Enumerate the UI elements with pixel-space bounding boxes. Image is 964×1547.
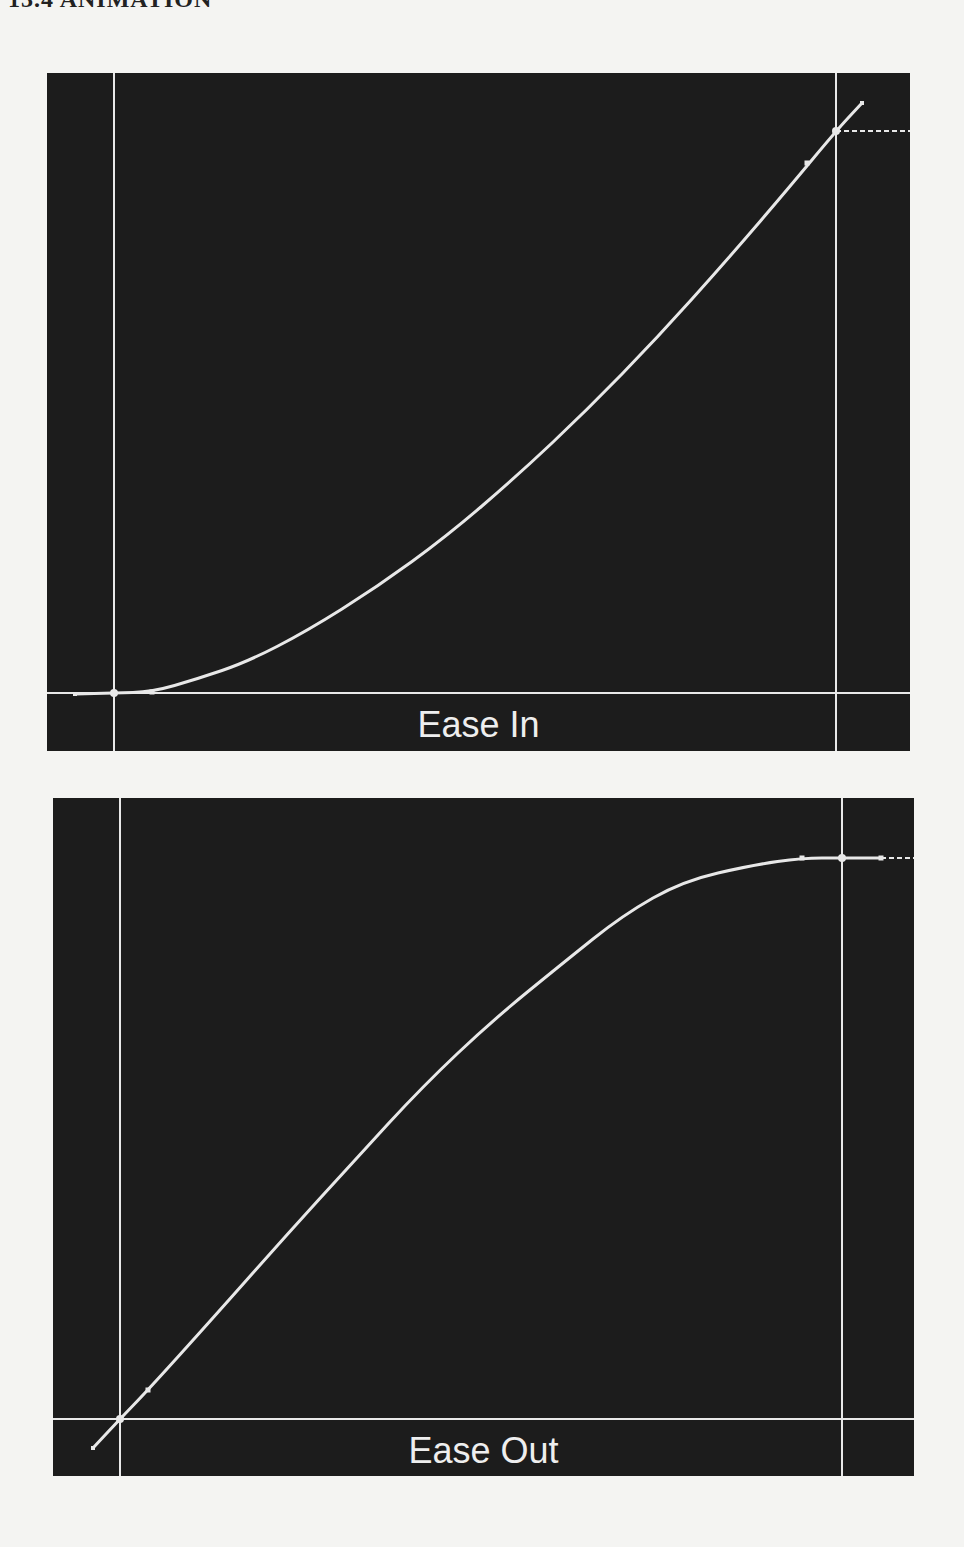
ease-out-graph-panel: Ease Out [53, 798, 914, 1476]
curve-endpoint [860, 101, 864, 105]
ease-in-curve-graph [47, 73, 910, 751]
curve-endpoint [879, 856, 883, 860]
ease-in-curve [75, 103, 862, 694]
start-keyframe-point [110, 689, 118, 697]
curve-endpoint [73, 692, 77, 696]
ease-out-curve [93, 858, 881, 1448]
page-header-fragment: 13.4 ANIMATION [8, 0, 212, 13]
end-keyframe-point [838, 854, 846, 862]
end-keyframe-point [832, 127, 840, 135]
ease-out-curve-graph [53, 798, 914, 1476]
ease-in-graph-panel: Ease In [47, 73, 910, 751]
tangent-handle-point [150, 690, 155, 695]
start-keyframe-point [116, 1415, 124, 1423]
tangent-handle-point [800, 856, 805, 861]
ease-in-label: Ease In [47, 707, 910, 743]
ease-out-label: Ease Out [53, 1433, 914, 1469]
tangent-handle-point [146, 1388, 151, 1393]
tangent-handle-point [805, 161, 810, 166]
